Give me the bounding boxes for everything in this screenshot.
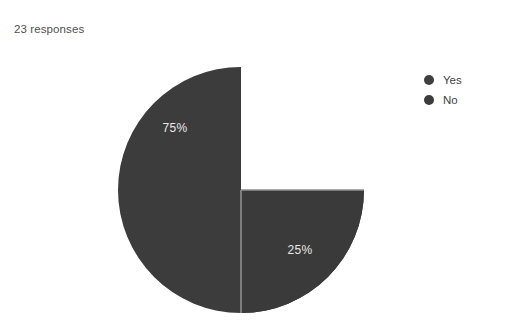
pie-chart-plot-area: 75% 25% <box>118 67 364 313</box>
legend-swatch-yes-icon <box>424 75 434 85</box>
legend-label-no: No <box>443 93 458 107</box>
pie-chart-card: 23 responses 75% 25% Yes No <box>0 0 505 328</box>
legend-swatch-no-icon <box>424 95 434 105</box>
response-count-label: 23 responses <box>14 22 84 36</box>
legend-label-yes: Yes <box>443 73 462 87</box>
chart-legend: Yes No <box>424 70 502 110</box>
pie-slice-label-no: 25% <box>288 243 313 257</box>
pie-slice-label-yes: 75% <box>163 121 188 135</box>
legend-item-no[interactable]: No <box>424 90 502 109</box>
pie-chart-svg: 75% 25% <box>118 67 364 313</box>
legend-item-yes[interactable]: Yes <box>424 70 502 89</box>
